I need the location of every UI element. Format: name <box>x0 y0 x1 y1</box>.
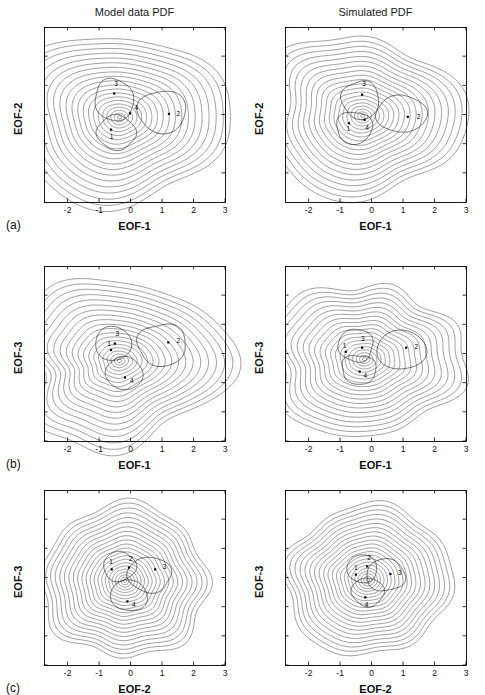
cluster-marker-4: 4 <box>126 600 136 607</box>
cluster-marker-1: 1 <box>109 558 113 570</box>
xtick-label: 2 <box>191 444 196 454</box>
axes-frame <box>286 267 467 442</box>
svg-text:3: 3 <box>114 80 118 87</box>
axes-frame <box>45 28 226 203</box>
row-label-b: (b) <box>6 457 21 471</box>
xtick-label: 1 <box>160 668 165 678</box>
plot-b-simulated: 1234-2-10123-3-2-1012 <box>285 266 485 467</box>
xtick-label: 0 <box>128 668 133 678</box>
cluster-marker-4: 4 <box>364 596 369 608</box>
cluster-marker-4: 4 <box>364 119 370 131</box>
xtick-label: 1 <box>401 668 406 678</box>
cluster-marker-1: 1 <box>354 564 358 576</box>
xtick-label: -2 <box>64 205 72 215</box>
panel-title-model: Model data PDF <box>44 6 225 18</box>
xaxis-label-b-model: EOF-1 <box>44 459 225 471</box>
xtick-label: -2 <box>64 668 72 678</box>
cluster-marker-3: 3 <box>154 563 167 571</box>
xtick-label: 3 <box>223 668 228 678</box>
yaxis-label-c-simulated: EOF-3 <box>253 565 265 597</box>
xtick-label: -2 <box>305 205 313 215</box>
svg-text:3: 3 <box>362 80 366 87</box>
row-label-c: (c) <box>6 681 20 695</box>
contour-group-a-model <box>44 39 230 212</box>
cluster-marker-2: 2 <box>128 555 133 569</box>
axes-frame <box>45 491 226 666</box>
panel-title-simulated: Simulated PDF <box>285 6 466 18</box>
svg-text:1: 1 <box>354 564 358 571</box>
panel-a-simulated: 1234-2-10123-2-10123 <box>285 27 485 228</box>
trajectory-group-b-model <box>96 324 185 390</box>
xtick-label: 3 <box>223 444 228 454</box>
xtick-label: 1 <box>160 444 165 454</box>
xaxis-label-c-simulated: EOF-2 <box>285 683 466 695</box>
svg-text:2: 2 <box>129 555 133 562</box>
xtick-label: -2 <box>305 444 313 454</box>
svg-text:4: 4 <box>365 601 369 608</box>
panel-c-simulated: 1234-2-10123-3-2-1012 <box>285 490 485 691</box>
cluster-marker-4: 4 <box>129 104 139 114</box>
svg-text:1: 1 <box>110 133 114 140</box>
plot-a-simulated: 1234-2-10123-2-10123 <box>285 27 485 228</box>
xtick-label: -2 <box>64 444 72 454</box>
yaxis-label-b-simulated: EOF-3 <box>253 341 265 373</box>
xaxis-label-c-model: EOF-2 <box>44 683 225 695</box>
xtick-label: -1 <box>95 444 103 454</box>
xtick-label: 3 <box>223 205 228 215</box>
svg-text:2: 2 <box>417 113 421 120</box>
cluster-marker-2: 2 <box>405 343 418 350</box>
svg-text:1: 1 <box>343 342 347 349</box>
svg-text:4: 4 <box>132 601 136 608</box>
svg-text:3: 3 <box>398 569 402 576</box>
contour-group-c-model <box>44 498 212 658</box>
xtick-label: 0 <box>128 444 133 454</box>
xtick-label: 0 <box>369 668 374 678</box>
xtick-label: 2 <box>191 205 196 215</box>
yaxis-label-a-model: EOF-2 <box>12 102 24 134</box>
xtick-label: 3 <box>464 444 469 454</box>
xtick-label: 0 <box>369 444 374 454</box>
row-label-a: (a) <box>6 218 21 232</box>
cluster-marker-4: 4 <box>359 370 368 378</box>
panel-a-model: 1234-2-10123-2-10123 <box>44 27 247 228</box>
trajectory-group-a-simulated <box>337 81 428 145</box>
xtick-label: -1 <box>336 444 344 454</box>
xtick-label: 2 <box>191 668 196 678</box>
xtick-label: -1 <box>336 668 344 678</box>
xtick-label: -1 <box>95 205 103 215</box>
svg-text:3: 3 <box>361 335 365 342</box>
xtick-label: 0 <box>128 205 133 215</box>
xtick-label: 0 <box>369 205 374 215</box>
contour-group-b-simulated <box>285 283 468 436</box>
cluster-marker-2: 2 <box>167 337 180 344</box>
axes-frame <box>286 28 467 203</box>
cluster-marker-2: 2 <box>407 113 421 120</box>
xtick-label: 2 <box>432 205 437 215</box>
xtick-label: 3 <box>464 668 469 678</box>
xtick-label: 3 <box>464 205 469 215</box>
yaxis-label-c-model: EOF-3 <box>12 565 24 597</box>
panel-b-model: 1234-2-10123-3-2-1012 <box>44 266 247 467</box>
contour-group-a-simulated <box>285 36 469 203</box>
xtick-label: 1 <box>160 205 165 215</box>
svg-text:4: 4 <box>130 377 134 384</box>
cluster-marker-1: 1 <box>346 122 350 132</box>
xaxis-label-b-simulated: EOF-1 <box>285 459 466 471</box>
xaxis-label-a-simulated: EOF-1 <box>285 220 466 232</box>
svg-text:4: 4 <box>365 124 369 131</box>
plot-b-model: 1234-2-10123-3-2-1012 <box>44 266 247 467</box>
xtick-label: 1 <box>401 205 406 215</box>
yaxis-label-a-simulated: EOF-2 <box>253 102 265 134</box>
cluster-marker-3: 3 <box>389 569 402 576</box>
xtick-label: 1 <box>401 444 406 454</box>
svg-text:1: 1 <box>107 340 111 347</box>
xtick-label: -1 <box>95 668 103 678</box>
svg-text:2: 2 <box>367 554 371 561</box>
xtick-label: -2 <box>305 668 313 678</box>
svg-text:3: 3 <box>163 563 167 570</box>
xaxis-label-a-model: EOF-1 <box>44 220 225 232</box>
svg-text:2: 2 <box>177 110 181 117</box>
plot-c-simulated: 1234-2-10123-3-2-1012 <box>285 490 485 691</box>
svg-text:4: 4 <box>363 372 367 379</box>
